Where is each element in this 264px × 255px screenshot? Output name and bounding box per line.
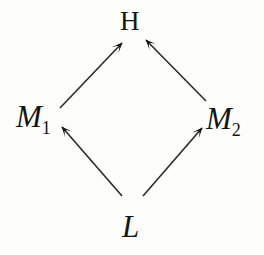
edge-m2-to-h [146,40,206,101]
node-label-l: L [122,211,139,242]
edge-l-to-m2 [143,128,202,196]
node-label-m1: M1 [16,101,51,132]
node-label-h: H [120,8,140,35]
node-l-base: L [122,209,139,244]
node-m1-subscript: 1 [42,118,51,138]
node-m1-base: M [16,99,42,134]
node-m2-base: M [206,101,232,136]
edge-l-to-m1 [62,127,122,196]
edge-m1-to-h [60,43,122,108]
node-m2-subscript: 2 [232,120,241,140]
node-label-m2: M2 [206,103,241,134]
lattice-diagram: H M1 M2 L [0,0,264,255]
node-h-base: H [120,6,140,36]
